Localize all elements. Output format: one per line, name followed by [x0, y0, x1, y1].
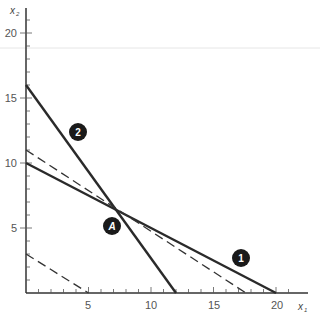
x-tick-label-5: 5: [85, 299, 91, 311]
x-tick-label-10: 10: [145, 299, 157, 311]
y-tick-label-10: 10: [5, 157, 17, 169]
y-tick-label-15: 15: [5, 92, 17, 104]
x-ticks: [39, 287, 289, 293]
constraint-line-1: [26, 163, 276, 293]
svg-text:A: A: [107, 221, 115, 232]
x-axis-label: x 1: [297, 301, 307, 313]
svg-text:1: 1: [238, 253, 244, 264]
svg-text:2: 2: [75, 127, 81, 138]
y-tick-label-5: 5: [11, 222, 17, 234]
axes: [26, 8, 308, 293]
objective-line-initial: [26, 254, 89, 293]
x-tick-label-20: 20: [271, 299, 283, 311]
x-tick-label-15: 15: [208, 299, 220, 311]
svg-text:x: x: [9, 5, 16, 16]
constraint-line-2: [26, 85, 176, 293]
svg-text:2: 2: [15, 11, 20, 17]
objective-line-optimal: [26, 150, 246, 293]
marker-2: 2: [69, 123, 87, 141]
svg-text:x: x: [297, 301, 304, 312]
marker-A: A: [103, 217, 121, 235]
svg-text:1: 1: [304, 307, 307, 313]
lp-chart: 5 10 15 20 5 10 15 20 x 1 x 2 2 A 1: [0, 0, 320, 318]
marker-1: 1: [232, 249, 250, 267]
y-axis-label: x 2: [9, 5, 20, 17]
y-tick-label-20: 20: [5, 27, 17, 39]
